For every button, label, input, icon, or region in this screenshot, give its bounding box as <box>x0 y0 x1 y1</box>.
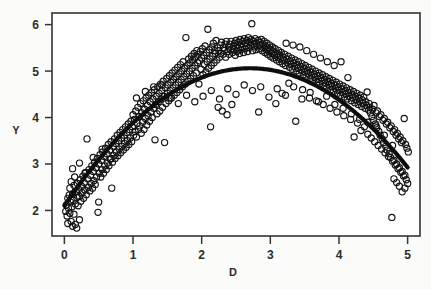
x-axis-tick-label: 0 <box>61 248 68 262</box>
x-axis-tick-label: 4 <box>336 248 343 262</box>
y-axis-tick-label: 2 <box>32 204 39 218</box>
x-axis-tick-label: 3 <box>267 248 274 262</box>
scatter-plot-canvas: 23456 012345 Y D <box>0 0 431 289</box>
x-axis-tick-label: 1 <box>130 248 137 262</box>
y-axis-tick-label: 4 <box>32 111 39 125</box>
x-axis-title: D <box>229 266 237 278</box>
y-axis-tick-label: 5 <box>32 65 39 79</box>
y-axis-tick-label: 3 <box>32 157 39 171</box>
y-axis-tick-label: 6 <box>32 18 39 32</box>
x-axis-tick-label: 2 <box>198 248 205 262</box>
chart-figure: 23456 012345 Y D <box>0 0 431 289</box>
x-axis-tick-label: 5 <box>404 248 411 262</box>
y-axis-title: Y <box>12 124 20 136</box>
